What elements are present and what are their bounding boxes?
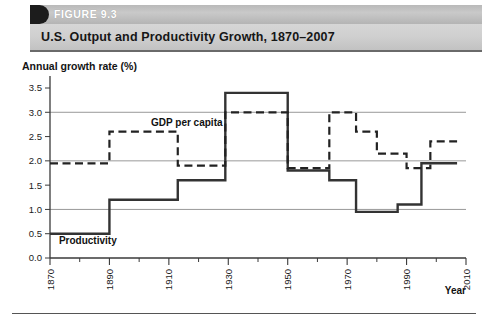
x-tick-label: 1990 [401, 269, 412, 290]
figure-bullet-icon [30, 5, 49, 24]
figure-number-label: FIGURE 9.3 [54, 8, 117, 20]
chart-container: 0.00.51.01.52.02.53.03.5 187018901910193… [0, 58, 487, 303]
x-axis-title: Year [445, 285, 466, 296]
series-line-productivity [50, 93, 457, 234]
series-label-gdp-per-capita: GDP per capita [151, 117, 223, 128]
y-tick-label: 0.0 [29, 252, 42, 263]
series-label-productivity: Productivity [59, 235, 117, 246]
chart-annotations: ProductivityGDP per capita [59, 117, 223, 247]
chart-gridlines [50, 112, 466, 209]
chart-y-ticks: 0.00.51.01.52.02.53.03.5 [29, 82, 50, 263]
bottom-divider [12, 313, 476, 314]
chart-axes [50, 76, 466, 258]
y-tick-label: 3.5 [29, 82, 42, 93]
x-tick-label: 1890 [104, 269, 115, 290]
y-tick-label: 0.5 [29, 228, 42, 239]
series-line-gdp-per-capita [50, 112, 457, 168]
chart-series [50, 93, 457, 234]
y-tick-label: 2.5 [29, 131, 42, 142]
x-tick-label: 1910 [163, 269, 174, 290]
y-tick-label: 2.0 [29, 155, 42, 166]
figure-title: U.S. Output and Productivity Growth, 187… [41, 30, 335, 44]
y-tick-label: 1.0 [29, 204, 42, 215]
y-axis-title: Annual growth rate (%) [22, 60, 137, 72]
figure-header: FIGURE 9.3 U.S. Output and Productivity … [0, 0, 487, 60]
chart-x-ticks: 18701890191019301950197019902010 [45, 258, 472, 290]
line-chart: 0.00.51.01.52.02.53.03.5 187018901910193… [0, 58, 487, 303]
y-tick-label: 3.0 [29, 107, 42, 118]
y-tick-label: 1.5 [29, 180, 42, 191]
x-tick-label: 1970 [342, 269, 353, 290]
x-tick-label: 1950 [282, 269, 293, 290]
x-tick-label: 1870 [45, 269, 56, 290]
x-tick-label: 1930 [223, 269, 234, 290]
